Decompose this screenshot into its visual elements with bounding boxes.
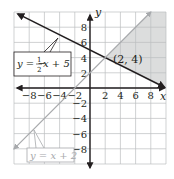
x-tick-label: 6 — [132, 90, 138, 101]
y-tick-label: −6 — [72, 129, 87, 140]
line2-label-box: y = x + 2 — [27, 148, 77, 162]
x-tick-label: 2 — [102, 90, 108, 101]
x-tick-label: −4 — [52, 90, 67, 101]
x-tick-label: −6 — [37, 90, 52, 101]
line1-fraction-numerator: 1 — [37, 56, 41, 64]
line1-label-suffix: x + 5 — [43, 58, 70, 69]
y-axis-label: y — [94, 6, 102, 19]
x-axis-label: x — [160, 90, 167, 103]
y-tick-label: −4 — [72, 113, 87, 124]
coordinate-plane: −8−6−4−22468−8−6−4−22468 x y (2, 4) y = … — [0, 0, 174, 179]
line1-fraction-denominator: 2 — [37, 66, 41, 74]
y-tick-label: 4 — [81, 53, 87, 64]
x-tick-label: 4 — [117, 90, 123, 101]
y-tick-label: 8 — [81, 22, 87, 33]
shaded-region — [106, 12, 166, 88]
shaded-solution-region — [106, 12, 166, 88]
x-tick-label: 8 — [148, 90, 154, 101]
line2-label: y = x + 2 — [29, 150, 77, 161]
intersection-point-label: (2, 4) — [113, 53, 143, 66]
line1-label-box: y = − 1 2 x + 5 — [14, 52, 71, 76]
y-tick-label: −2 — [72, 98, 87, 109]
x-tick-label: −8 — [22, 90, 37, 101]
